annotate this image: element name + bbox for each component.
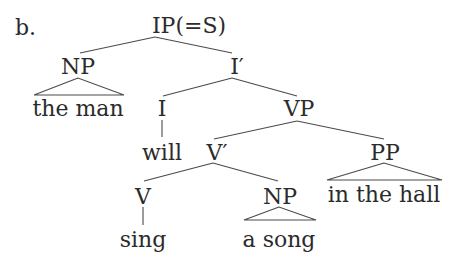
node-v-bar: V′ bbox=[206, 140, 228, 165]
node-pp: PP bbox=[370, 140, 400, 165]
edge-ip-np bbox=[80, 37, 155, 53]
triangle-pp bbox=[327, 163, 442, 180]
node-np-object: NP bbox=[263, 184, 297, 209]
edge-vbar-np bbox=[213, 163, 278, 181]
syntax-tree-diagram: b. IP(=S) NP the man I′ I will VP V′ PP … bbox=[0, 0, 462, 259]
node-np-subject: NP bbox=[61, 54, 95, 79]
example-label: b. bbox=[15, 15, 36, 40]
edge-vp-pp bbox=[297, 121, 384, 139]
edge-vp-vbar bbox=[214, 121, 297, 139]
leaf-aux: will bbox=[142, 140, 182, 165]
node-i: I bbox=[158, 96, 167, 121]
triangle-np-subject bbox=[34, 78, 124, 95]
edge-vbar-v bbox=[144, 163, 213, 181]
node-ip: IP(=S) bbox=[152, 13, 226, 38]
leaf-verb: sing bbox=[120, 227, 167, 252]
edge-ibar-i bbox=[163, 78, 232, 96]
edge-ibar-vp bbox=[232, 78, 297, 96]
node-i-bar: I′ bbox=[230, 54, 244, 79]
leaf-subject: the man bbox=[32, 96, 123, 121]
leaf-object: a song bbox=[243, 227, 316, 252]
node-v: V bbox=[134, 184, 152, 209]
node-vp: VP bbox=[283, 96, 315, 121]
edge-ip-ibar bbox=[155, 37, 232, 53]
leaf-pp-phrase: in the hall bbox=[328, 182, 441, 207]
